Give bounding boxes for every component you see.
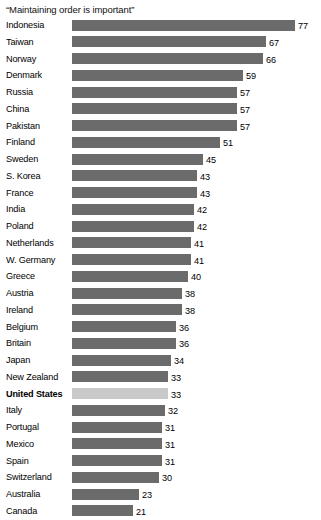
bar-value-label: 38 <box>185 305 195 316</box>
bar-row: Indonesia77 <box>0 18 321 35</box>
bar <box>72 187 197 198</box>
bar-row: Ireland38 <box>0 303 321 320</box>
bar-value-label: 21 <box>136 506 146 517</box>
bar-track: 59 <box>72 70 321 81</box>
bar-row-label: India <box>6 203 25 214</box>
bar-value-label: 42 <box>197 221 207 232</box>
bar-track: 23 <box>72 489 321 500</box>
bar-row: Mexico31 <box>0 437 321 454</box>
bar-row-label: Indonesia <box>6 19 44 30</box>
bar-track: 51 <box>72 137 321 148</box>
bar-value-label: 38 <box>185 288 195 299</box>
bar-row: New Zealand33 <box>0 370 321 387</box>
bar-row: Netherlands41 <box>0 236 321 253</box>
bar-track: 31 <box>72 422 321 433</box>
bar <box>72 237 191 248</box>
bar-row: Australia23 <box>0 487 321 504</box>
bar-row-label: Belgium <box>6 321 38 332</box>
bar-value-label: 66 <box>266 54 276 65</box>
bar-value-label: 33 <box>171 372 181 383</box>
bar-value-label: 31 <box>165 439 175 450</box>
bar-value-label: 23 <box>142 489 152 500</box>
bar-track: 36 <box>72 338 321 349</box>
bar-value-label: 32 <box>168 405 178 416</box>
bar-track: 43 <box>72 170 321 181</box>
bar <box>72 254 191 265</box>
bar <box>72 388 168 399</box>
bar-row-label: Russia <box>6 86 33 97</box>
bar-row: Norway66 <box>0 52 321 69</box>
bar-track: 43 <box>72 187 321 198</box>
bar-row-label: Pakistan <box>6 120 40 131</box>
bar-value-label: 77 <box>298 20 308 31</box>
bar-row: Denmark59 <box>0 68 321 85</box>
bar-row-label: Portugal <box>6 421 39 432</box>
bar-row-label: United States <box>6 388 62 399</box>
bar <box>72 154 203 165</box>
bar-track: 33 <box>72 388 321 399</box>
bar-row: Belgium36 <box>0 320 321 337</box>
bar-row: Canada21 <box>0 504 321 520</box>
bar-rows-container: Indonesia77Taiwan67Norway66Denmark59Russ… <box>0 18 321 520</box>
bar <box>72 103 237 114</box>
bar <box>72 70 243 81</box>
bar-row-label: Canada <box>6 505 37 516</box>
bar-row-label: Austria <box>6 287 33 298</box>
bar-track: 32 <box>72 405 321 416</box>
bar-track: 30 <box>72 472 321 483</box>
bar <box>72 170 197 181</box>
bar-value-label: 59 <box>246 70 256 81</box>
bar-value-label: 45 <box>206 154 216 165</box>
bar-row-label: Italy <box>6 404 22 415</box>
bar-row: India42 <box>0 202 321 219</box>
bar <box>72 338 176 349</box>
bar-row: Greece40 <box>0 269 321 286</box>
bar-track: 57 <box>72 103 321 114</box>
bar-value-label: 41 <box>194 238 204 249</box>
bar-row-label: Netherlands <box>6 237 54 248</box>
bar-row: Portugal31 <box>0 420 321 437</box>
bar-row-label: Poland <box>6 220 34 231</box>
bar-row-label: Norway <box>6 53 36 64</box>
bar-value-label: 51 <box>223 137 233 148</box>
bar-row-label: Switzerland <box>6 471 52 482</box>
bar <box>72 204 194 215</box>
bar-value-label: 43 <box>200 188 210 199</box>
bar-track: 42 <box>72 204 321 215</box>
bar-value-label: 43 <box>200 171 210 182</box>
bar-track: 33 <box>72 371 321 382</box>
bar-value-label: 33 <box>171 389 181 400</box>
bar <box>72 271 188 282</box>
bar-row: S. Korea43 <box>0 169 321 186</box>
bar <box>72 355 171 366</box>
bar <box>72 405 165 416</box>
bar <box>72 20 295 31</box>
bar-track: 57 <box>72 87 321 98</box>
bar-track: 31 <box>72 455 321 466</box>
bar <box>72 422 162 433</box>
bar-row-label: Finland <box>6 136 35 147</box>
bar-track: 42 <box>72 221 321 232</box>
bar-row: Russia57 <box>0 85 321 102</box>
bar-row: Japan34 <box>0 353 321 370</box>
bar-value-label: 42 <box>197 204 207 215</box>
bar-track: 77 <box>72 20 321 31</box>
bar-track: 38 <box>72 288 321 299</box>
bar-row-label: Australia <box>6 488 40 499</box>
chart-title: “Maintaining order is important” <box>6 4 134 15</box>
bar-track: 45 <box>72 154 321 165</box>
bar-value-label: 31 <box>165 422 175 433</box>
bar <box>72 120 237 131</box>
bar-value-label: 57 <box>240 121 250 132</box>
bar-row-label: Mexico <box>6 438 34 449</box>
bar-row: Taiwan67 <box>0 35 321 52</box>
bar-track: 21 <box>72 505 321 516</box>
bar-value-label: 36 <box>179 338 189 349</box>
bar <box>72 438 162 449</box>
bar-track: 36 <box>72 321 321 332</box>
bar-value-label: 36 <box>179 322 189 333</box>
bar-row-label: S. Korea <box>6 170 40 181</box>
bar-value-label: 57 <box>240 104 250 115</box>
bar-row: China57 <box>0 102 321 119</box>
